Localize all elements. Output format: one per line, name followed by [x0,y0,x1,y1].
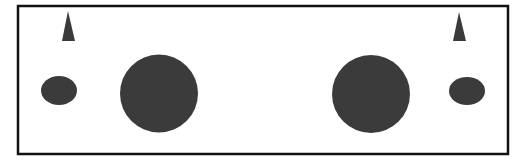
frame-border [18,6,508,154]
left-triangle [62,11,75,41]
left-large-circle [120,55,198,133]
diagram-canvas [0,0,525,160]
right-large-circle [332,55,410,133]
right-small-ellipse [449,77,485,105]
left-small-ellipse [41,76,77,105]
right-triangle [453,12,466,41]
